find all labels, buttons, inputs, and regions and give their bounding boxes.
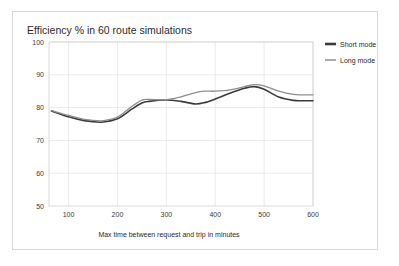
- x-tick-label: 600: [307, 211, 319, 218]
- legend-label-long-mode: Long mode: [340, 57, 375, 65]
- x-tick-label: 300: [160, 211, 172, 218]
- chart-figure: 5060708090100 100200300400500600 Efficie…: [12, 11, 378, 250]
- y-tick-label: 70: [36, 137, 44, 144]
- data-series-layer: [51, 85, 313, 123]
- series-line-long-mode: [51, 85, 313, 121]
- legend-label-short-mode: Short mode: [340, 41, 376, 48]
- y-tick-label: 80: [36, 104, 44, 111]
- x-axis-tick-labels: 100200300400500600: [63, 211, 319, 218]
- y-tick-label: 50: [36, 203, 44, 210]
- axis-lines: [49, 42, 313, 206]
- y-tick-label: 100: [32, 39, 44, 46]
- line-chart: 5060708090100 100200300400500600 Efficie…: [13, 12, 377, 249]
- gridlines: [49, 42, 313, 206]
- series-line-short-mode: [51, 87, 313, 123]
- x-tick-label: 500: [258, 211, 270, 218]
- y-tick-label: 90: [36, 71, 44, 78]
- x-axis-caption: Max time between request and trip in min…: [98, 231, 240, 239]
- x-tick-label: 200: [112, 211, 124, 218]
- x-tick-label: 400: [209, 211, 221, 218]
- y-axis-tick-labels: 5060708090100: [32, 39, 44, 210]
- chart-legend: Short modeLong mode: [325, 41, 376, 65]
- y-tick-label: 60: [36, 170, 44, 177]
- chart-title: Efficiency % in 60 route simulations: [27, 24, 192, 36]
- x-tick-label: 100: [63, 211, 75, 218]
